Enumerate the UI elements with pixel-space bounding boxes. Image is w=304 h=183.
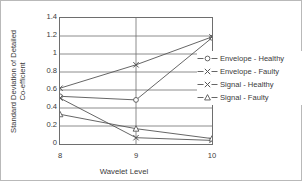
legend-item-label: Signal - Healthy xyxy=(220,79,274,90)
y-axis-tick-label: 0.8 xyxy=(33,67,57,75)
y-axis-tick-label: 0.6 xyxy=(33,85,57,93)
y-axis-tick-label: 1.4 xyxy=(33,13,57,21)
y-axis-tick-label: 1 xyxy=(33,49,57,57)
circle-marker-icon xyxy=(197,53,218,64)
legend-item[interactable]: Signal - Faulty xyxy=(197,91,303,104)
x-axis-tick-label: 8 xyxy=(47,151,73,160)
triangle-marker-icon xyxy=(197,92,218,103)
legend-item-label: Signal - Faulty xyxy=(220,92,269,103)
plot-area xyxy=(59,17,213,145)
x-marker-icon xyxy=(205,69,210,74)
y-axis-title: Standard Deviation of Detailed Co-effici… xyxy=(1,1,35,161)
y-axis-tick-label: 0 xyxy=(33,139,57,147)
y-axis-title-line-2: Co-efficient xyxy=(18,29,27,132)
x-marker-icon xyxy=(197,79,218,90)
legend-item[interactable]: Envelope - Healthy xyxy=(197,52,303,65)
x-axis-title: Wavelet Level xyxy=(35,167,213,176)
x-marker-icon xyxy=(197,66,218,77)
x-axis-tick-label: 9 xyxy=(123,151,149,160)
x-marker-icon xyxy=(205,82,210,87)
legend-item-label: Envelope - Healthy xyxy=(220,53,284,64)
legend-item[interactable]: Signal - Healthy xyxy=(197,78,303,91)
y-axis-tick-label: 0.4 xyxy=(33,103,57,111)
y-axis-title-line-1: Standard Deviation of Detailed xyxy=(9,29,18,132)
x-axis-tick-label: 10 xyxy=(199,151,225,160)
circle-marker-icon xyxy=(205,56,210,61)
triangle-marker-icon xyxy=(205,95,211,100)
y-axis-tick-label: 0.2 xyxy=(33,121,57,129)
x-axis-tick-labels: 8910 xyxy=(1,151,304,165)
legend-item-label: Envelope - Faulty xyxy=(220,66,279,77)
plot-svg xyxy=(60,18,212,144)
triangle-marker-icon xyxy=(60,111,63,116)
chart-legend: Envelope - HealthyEnvelope - FaultySigna… xyxy=(197,51,303,105)
circle-marker-icon xyxy=(134,98,139,103)
chart-figure: Standard Deviation of Detailed Co-effici… xyxy=(0,0,302,181)
y-axis-tick-label: 1.2 xyxy=(33,31,57,39)
legend-item[interactable]: Envelope - Faulty xyxy=(197,65,303,78)
